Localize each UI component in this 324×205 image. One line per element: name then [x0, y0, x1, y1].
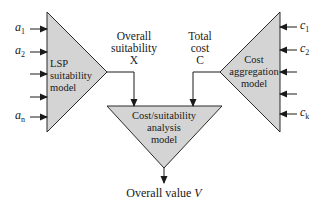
input-label-c2: c2 — [300, 41, 309, 57]
cost-model-label: Cost aggregation model — [228, 54, 280, 90]
analysis-model-label: Cost/suitability analysis model — [114, 110, 214, 146]
cost-connector — [193, 72, 220, 106]
input-label-ck: ck — [300, 105, 309, 121]
input-label-c1: c1 — [300, 18, 309, 34]
lsp-model-label: LSP suitability model — [50, 58, 92, 94]
overall-value-label: Overall value V — [104, 186, 224, 201]
overall-suitability-label: Overall suitability X — [104, 30, 164, 66]
input-label-a2: a2 — [15, 43, 25, 59]
total-cost-label: Total cost C — [180, 30, 220, 66]
suitability-connector — [107, 72, 134, 106]
input-label-a1: a1 — [15, 20, 25, 36]
lsp-input-arrows — [30, 29, 47, 117]
input-label-an: an — [15, 108, 25, 124]
cost-input-arrows — [280, 27, 297, 114]
